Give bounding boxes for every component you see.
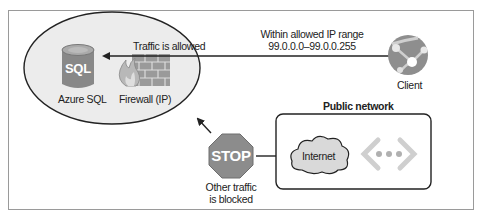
internet-label: Internet	[302, 150, 335, 162]
public-network-title: Public network	[323, 100, 393, 112]
ip-range-title: Within allowed IP range	[252, 28, 372, 40]
client-label: Client	[397, 79, 422, 91]
stop-sign-text: STOP	[209, 148, 253, 164]
database-icon-text: SQL	[65, 63, 91, 75]
blocked-label-line2: is blocked	[196, 193, 266, 205]
firewall-label: Firewall (IP)	[119, 93, 171, 105]
allowed-traffic-label: Traffic is allowed	[133, 40, 205, 52]
blocked-traffic-arrow	[198, 119, 211, 133]
client-icon	[388, 35, 428, 75]
blocked-label-line1: Other traffic	[196, 181, 266, 193]
database-label: Azure SQL	[58, 93, 107, 105]
ip-range-value: 99.0.0.0–99.0.0.255	[252, 40, 372, 52]
security-zone	[24, 12, 200, 124]
